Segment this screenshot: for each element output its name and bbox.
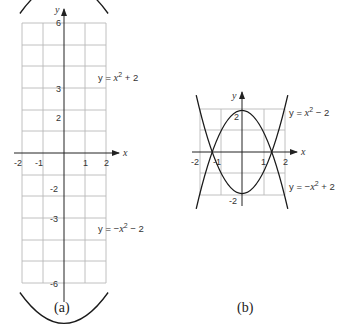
panel-a-y-label: y (54, 4, 60, 15)
panel-b-xtick: -2 (191, 157, 199, 167)
panel-b-xtick: 2 (283, 157, 288, 167)
panel-b-caption: (b) (237, 300, 254, 316)
panel-a-xtick: 1 (83, 158, 88, 168)
panel-b-y-label: y (231, 90, 237, 101)
panel-a-xtick: 2 (104, 158, 109, 168)
panel-a-ytick: 6 (56, 18, 61, 28)
panel-a-caption: (a) (54, 300, 70, 316)
panel-b-ytick: -2 (229, 196, 237, 206)
panel-a-ytick: 3 (56, 84, 61, 94)
panel-b: x y -2 -1 1 2 2 -2 y = x2 − 2 y = −x2 + … (191, 90, 335, 316)
panel-a-ytick: -3 (50, 214, 58, 224)
panel-b-eq-upward: y = x2 − 2 (289, 106, 329, 118)
panel-a-ytick: -6 (50, 279, 58, 289)
panel-b-x-label: x (300, 146, 306, 157)
panel-a: x y -2 -1 1 2 6 3 2 -2 -3 -6 y = x2 + 2 … (14, 0, 144, 323)
panel-a-xtick: -1 (35, 158, 43, 168)
panel-b-xtick: 1 (261, 157, 266, 167)
panel-a-ytick: -2 (50, 184, 58, 194)
figure: x y -2 -1 1 2 6 3 2 -2 -3 -6 y = x2 + 2 … (0, 0, 343, 328)
panel-a-eq-upper: y = x2 + 2 (98, 71, 138, 83)
panel-a-x-label: x (122, 147, 128, 158)
panel-a-xtick: -2 (14, 158, 22, 168)
panel-a-eq-lower: y = −x2 − 2 (98, 222, 144, 234)
panel-a-ytick: 2 (56, 113, 61, 123)
panel-b-eq-downward: y = −x2 + 2 (289, 180, 335, 192)
